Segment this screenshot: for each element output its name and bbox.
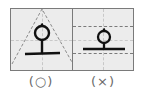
correct-caption: (○) [16, 74, 66, 89]
correct-example-panel [10, 8, 73, 71]
triangle-guide-icon [11, 9, 74, 72]
hangul-o-glyph [25, 24, 60, 54]
incorrect-example-panel [72, 8, 134, 71]
incorrect-caption: (×) [78, 74, 128, 89]
hangul-o-glyph-icon [73, 9, 135, 72]
